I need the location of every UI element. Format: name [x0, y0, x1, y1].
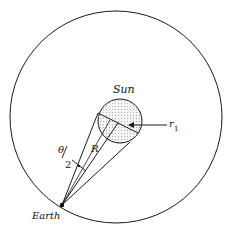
earth-label: Earth	[31, 210, 61, 221]
theta-label: θ	[58, 144, 64, 155]
angle-tick-dot	[78, 165, 80, 167]
sun-earth-diagram: Sun Earth R r 1 θ 2	[0, 0, 232, 233]
earth-point	[60, 203, 64, 207]
sun-label: Sun	[113, 83, 135, 96]
radius-label: R	[90, 143, 99, 154]
sun-disk	[98, 99, 142, 143]
r1-subscript: 1	[174, 125, 178, 133]
theta-divisor-label: 2	[65, 159, 71, 170]
